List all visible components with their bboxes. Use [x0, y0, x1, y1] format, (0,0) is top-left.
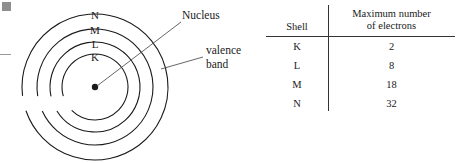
column-header-max-line2: of electrons [328, 20, 455, 32]
shell-label-n: N [91, 9, 99, 21]
table-header-row: Shell Maximum number of electrons [266, 3, 455, 37]
figure-root: N M L K Nucleus valence band Shell Maxim… [0, 0, 471, 163]
column-header-max-line1: Maximum number [328, 8, 455, 20]
valence-band-leader-line [161, 57, 203, 69]
shell-label-l: L [92, 38, 99, 50]
cell-shell: K [266, 37, 328, 57]
valence-band-callout-line2: band [206, 58, 229, 70]
table-head: Shell Maximum number of electrons [266, 3, 455, 37]
electron-capacity-table: Shell Maximum number of electrons K 2 L … [266, 3, 455, 113]
atom-shell-diagram: N M L K Nucleus valence band [0, 0, 250, 163]
shell-label-m: M [90, 24, 100, 36]
shell-label-k: K [91, 51, 99, 63]
cell-max-electrons: 2 [328, 37, 455, 57]
table-row: M 18 [266, 75, 455, 94]
table-row: N 32 [266, 94, 455, 113]
column-header-max-electrons: Maximum number of electrons [328, 3, 455, 37]
cell-shell: M [266, 75, 328, 94]
cell-max-electrons: 18 [328, 75, 455, 94]
column-header-shell: Shell [266, 3, 328, 37]
nucleus-callout-label: Nucleus [182, 9, 220, 21]
atom-diagram-svg: N M L K Nucleus valence band [0, 0, 250, 163]
table-body: K 2 L 8 M 18 N 32 [266, 37, 455, 114]
valence-band-callout-line1: valence [206, 44, 241, 56]
cell-max-electrons: 32 [328, 94, 455, 113]
cell-shell: N [266, 94, 328, 113]
electron-capacity-table-wrap: Shell Maximum number of electrons K 2 L … [266, 0, 466, 163]
table-row: K 2 [266, 37, 455, 57]
nucleus-dot [92, 84, 98, 90]
cell-max-electrons: 8 [328, 56, 455, 75]
cell-shell: L [266, 56, 328, 75]
table-row: L 8 [266, 56, 455, 75]
